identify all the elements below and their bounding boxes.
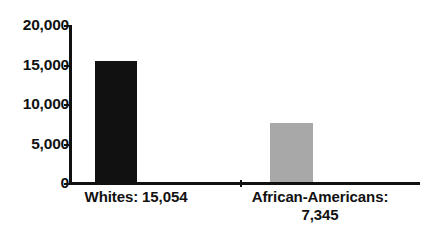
- bar-whites: [95, 61, 137, 182]
- y-tick-label-20000: 20,000: [3, 17, 69, 33]
- x-tick-mark-divider: [240, 180, 242, 187]
- bar-african-americans: [270, 123, 313, 182]
- category-label-african-americans-line1: African-Americans:: [225, 188, 415, 206]
- category-label-whites: Whites: 15,054: [61, 188, 211, 206]
- bar-african-americans-fill: [270, 123, 313, 182]
- category-label-african-americans-line2: 7,345: [225, 206, 415, 224]
- y-axis-labels: 20,000 15,000 10,000 5,000 0: [0, 0, 69, 237]
- category-label-whites-line1: Whites: 15,054: [61, 188, 211, 206]
- y-axis-line: [69, 25, 72, 185]
- y-tick-label-0: 0: [3, 175, 69, 191]
- y-tick-label-10000: 10,000: [3, 96, 69, 112]
- x-axis-line: [69, 182, 420, 185]
- bar-whites-fill: [95, 61, 137, 182]
- bar-chart: 20,000 15,000 10,000 5,000 0 Whites: 15,…: [0, 0, 434, 237]
- y-tick-label-15000: 15,000: [3, 57, 69, 73]
- category-label-african-americans: African-Americans: 7,345: [225, 188, 415, 225]
- y-tick-label-5000: 5,000: [3, 136, 69, 152]
